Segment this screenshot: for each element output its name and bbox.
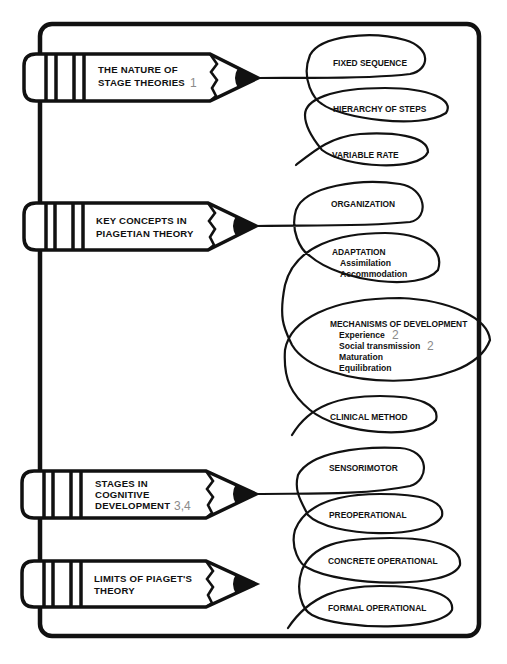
pencil-2-title-line-1: KEY CONCEPTS IN — [96, 215, 187, 226]
loop-clinical-method[interactable]: CLINICAL METHOD — [330, 412, 408, 422]
adaptation-sub-assimilation: Assimilation — [340, 258, 391, 268]
loop-adaptation[interactable]: ADAPTATION — [332, 247, 386, 257]
loop-fixed-sequence[interactable]: FIXED SEQUENCE — [333, 58, 407, 68]
loop-concrete-operational[interactable]: CONCRETE OPERATIONAL — [328, 556, 438, 566]
mechanisms-sub-social-transmission: Social transmission — [339, 341, 420, 351]
loop-formal-operational[interactable]: FORMAL OPERATIONAL — [328, 603, 426, 613]
pencil-3-title-line-3: DEVELOPMENT — [95, 500, 170, 511]
mechanisms-sub-experience: Experience — [339, 330, 385, 340]
diagram-frame — [40, 24, 479, 636]
loop-sensorimotor[interactable]: SENSORIMOTOR — [329, 463, 398, 473]
loop-organization[interactable]: ORGANIZATION — [331, 199, 395, 209]
mechanisms-sub-maturation: Maturation — [339, 352, 383, 362]
pencil-key-concepts-in-piagetian-theory[interactable] — [24, 203, 256, 250]
pencil-1-title-line-1: THE NATURE OF — [98, 64, 178, 75]
loop-variable-rate[interactable]: VARIABLE RATE — [332, 150, 399, 160]
chapter-outline-diagram: THE NATURE OF STAGE THEORIES 1 KEY CONCE… — [0, 0, 507, 664]
pencil-1-title-line-2: STAGE THEORIES — [98, 77, 185, 88]
reference-number: 2 — [427, 339, 434, 353]
loop-hierarchy-of-steps[interactable]: HIERARCHY OF STEPS — [333, 104, 427, 114]
pencil-2-title-line-2: PIAGETIAN THEORY — [96, 228, 194, 239]
pencil-3-title-line-2: COGNITIVE — [95, 489, 150, 500]
loop-mechanisms-of-development[interactable]: MECHANISMS OF DEVELOPMENT — [330, 319, 468, 329]
adaptation-sub-accommodation: Accommodation — [340, 269, 407, 279]
pencil-4-title-line-1: LIMITS OF PIAGET'S — [94, 573, 192, 584]
reference-number: 2 — [392, 328, 399, 342]
mechanisms-sub-equilibration: Equilibration — [339, 363, 392, 373]
reference-number: 1 — [190, 76, 197, 90]
pencil-limits-of-piagets-theory[interactable] — [22, 561, 256, 607]
reference-number: 3,4 — [174, 499, 191, 513]
loop-preoperational[interactable]: PREOPERATIONAL — [329, 510, 407, 520]
pencil-4-title-line-2: THEORY — [94, 585, 135, 596]
pencil-3-title-line-1: STAGES IN — [95, 478, 148, 489]
